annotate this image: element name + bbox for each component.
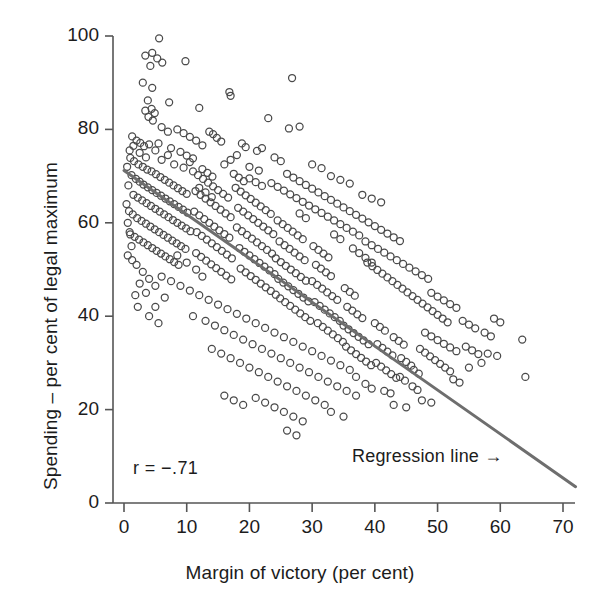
data-point <box>158 124 165 131</box>
data-point <box>242 269 249 276</box>
data-point <box>274 217 281 224</box>
data-point <box>240 208 247 215</box>
data-point <box>230 170 237 177</box>
data-point <box>356 232 363 239</box>
data-point <box>252 394 259 401</box>
data-point <box>282 299 289 306</box>
data-point <box>216 227 223 234</box>
data-point <box>418 397 425 404</box>
data-point <box>399 285 406 292</box>
data-point <box>299 236 306 243</box>
data-point <box>270 231 277 238</box>
data-point <box>248 235 255 242</box>
data-point <box>202 317 209 324</box>
data-point <box>149 84 156 91</box>
data-point <box>193 137 200 144</box>
data-point <box>353 373 360 380</box>
data-point <box>297 310 304 317</box>
data-point <box>149 117 156 124</box>
data-point <box>203 257 210 264</box>
data-point <box>309 161 316 168</box>
data-point <box>161 294 168 301</box>
data-point <box>142 52 149 59</box>
data-point <box>189 313 196 320</box>
data-point <box>222 210 229 217</box>
data-point <box>432 357 439 364</box>
data-point <box>240 336 247 343</box>
data-point <box>156 35 163 42</box>
data-point <box>284 224 291 231</box>
data-point <box>168 278 175 285</box>
x-tick-label: 30 <box>282 516 342 538</box>
data-point <box>401 377 408 384</box>
data-point <box>168 145 175 152</box>
data-point <box>146 313 153 320</box>
data-point <box>374 266 381 273</box>
data-point <box>159 59 166 66</box>
x-tick-label: 60 <box>470 516 530 538</box>
data-point <box>180 164 187 171</box>
data-point <box>258 345 265 352</box>
data-point <box>198 232 205 239</box>
data-point <box>144 97 151 104</box>
x-axis-title: Margin of victory (per cent) <box>0 562 600 584</box>
data-point <box>166 99 173 106</box>
data-point <box>478 359 485 366</box>
data-point <box>287 359 294 366</box>
data-point <box>235 204 242 211</box>
data-point <box>245 212 252 219</box>
data-point <box>136 149 143 156</box>
data-point <box>403 358 410 365</box>
data-point <box>494 352 501 359</box>
data-point <box>484 350 491 357</box>
data-point <box>346 288 353 295</box>
data-point <box>220 190 227 197</box>
data-point <box>327 173 334 180</box>
data-point <box>301 257 308 264</box>
data-point <box>218 138 225 145</box>
data-point <box>243 315 250 322</box>
data-point <box>155 140 162 147</box>
data-point <box>403 404 410 411</box>
data-point <box>465 364 472 371</box>
data-point <box>183 259 190 266</box>
data-point <box>224 306 231 313</box>
data-point <box>302 392 309 399</box>
x-tick-label: 40 <box>345 516 405 538</box>
data-point <box>453 304 460 311</box>
data-point <box>247 273 254 280</box>
data-point <box>472 325 479 332</box>
data-point <box>123 201 130 208</box>
data-point <box>199 273 206 280</box>
data-point <box>263 246 270 253</box>
data-point <box>228 276 235 283</box>
data-point <box>378 199 385 206</box>
data-point <box>368 385 375 392</box>
x-tick-label: 50 <box>408 516 468 538</box>
data-point <box>284 383 291 390</box>
data-point <box>312 261 319 268</box>
data-point <box>257 203 264 210</box>
data-point <box>155 320 162 327</box>
data-point <box>199 166 206 173</box>
data-point <box>324 378 331 385</box>
data-point <box>258 182 265 189</box>
data-point <box>177 282 184 289</box>
data-point <box>353 392 360 399</box>
data-point <box>225 194 232 201</box>
data-point <box>246 163 253 170</box>
data-point <box>390 334 397 341</box>
x-tick-label: 70 <box>533 516 593 538</box>
regression-line <box>124 171 576 487</box>
y-tick-label: 80 <box>51 117 99 139</box>
data-point <box>221 231 228 238</box>
data-point <box>343 387 350 394</box>
data-point <box>302 215 309 222</box>
data-point <box>519 336 526 343</box>
data-point <box>146 275 153 282</box>
data-point <box>414 386 421 393</box>
data-point <box>312 397 319 404</box>
data-point <box>334 383 341 390</box>
data-point <box>208 345 215 352</box>
data-point <box>388 371 395 378</box>
